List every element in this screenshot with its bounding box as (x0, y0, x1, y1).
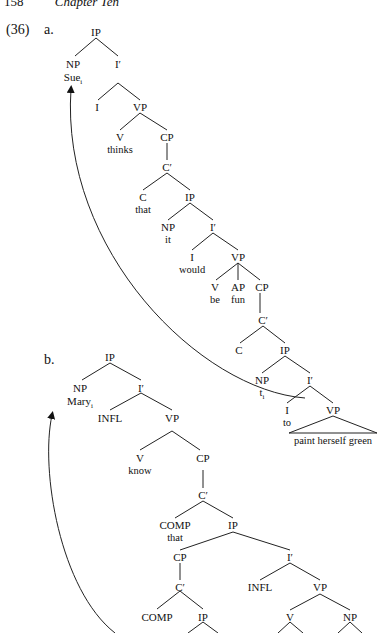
a-vp-3: VP (326, 404, 340, 416)
a-c-2: C (235, 344, 242, 356)
a-ip-3: IP (280, 344, 290, 356)
b-v-1: V (136, 452, 144, 464)
a-word-to: to (283, 417, 291, 429)
b-np-subject: NP (73, 382, 87, 394)
movement-arrow-b (49, 415, 115, 633)
b-cp-2: CP (173, 551, 186, 563)
b-infl-1: INFL (98, 412, 122, 424)
a-cp-1: CP (160, 131, 173, 143)
a-v-1: V (116, 131, 124, 143)
b-ip-3: IP (198, 611, 208, 623)
a-verb-be: be (210, 294, 220, 306)
b-v-2: V (286, 611, 294, 623)
a-i-1: I (95, 101, 99, 113)
a-verb-thinks: thinks (107, 144, 133, 156)
b-comp-2: COMP (141, 611, 172, 623)
a-np-2: NP (161, 221, 175, 233)
a-adj-fun: fun (231, 294, 245, 306)
b-infl-2: INFL (248, 581, 272, 593)
b-ibar-1: I′ (138, 382, 144, 394)
a-trace: ti (260, 387, 265, 403)
a-subject-word: Suei (64, 71, 82, 88)
a-ap: AP (231, 281, 245, 293)
a-vp-3-words: paint herself green (294, 435, 372, 447)
b-cp-1: CP (196, 452, 209, 464)
tree-branches (0, 0, 377, 633)
b-vp-2: VP (313, 581, 327, 593)
b-verb-know: know (128, 465, 151, 477)
a-aux-would: would (179, 264, 205, 276)
a-comp-that: that (135, 204, 151, 216)
a-i-3: I (285, 404, 289, 416)
b-comp-that: that (167, 532, 183, 544)
a-ip-root: IP (91, 26, 101, 38)
a-i-2: I (190, 251, 194, 263)
a-vp-1: VP (133, 101, 147, 113)
b-cbar-2: C′ (175, 581, 185, 593)
a-vp-2: VP (231, 251, 245, 263)
a-np-3: NP (255, 374, 269, 386)
a-c-1: C (139, 191, 146, 203)
a-ibar-1: I′ (115, 58, 121, 70)
b-np-2: NP (343, 611, 357, 623)
b-ibar-2: I′ (287, 551, 293, 563)
a-np-subject: NP (66, 58, 80, 70)
b-vp-1: VP (165, 412, 179, 424)
b-cbar-1: C′ (198, 489, 208, 501)
a-v-2: V (211, 281, 219, 293)
a-cp-2: CP (255, 281, 268, 293)
b-ip-2: IP (228, 519, 238, 531)
a-cbar-1: C′ (162, 161, 172, 173)
a-ibar-2: I′ (210, 221, 216, 233)
b-ip-root: IP (105, 351, 115, 363)
b-comp-1: COMP (159, 519, 190, 531)
a-word-it: it (165, 234, 171, 246)
a-ip-2: IP (185, 191, 195, 203)
a-cbar-2: C′ (258, 314, 268, 326)
a-ibar-3: I′ (307, 374, 313, 386)
b-subject-word: Maryi (67, 395, 93, 412)
